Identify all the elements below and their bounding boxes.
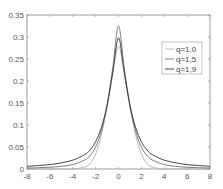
line-chart: -8-6-4-20246800.050.10.150.20.250.30.35q… [0, 0, 223, 189]
x-tick-label: -4 [69, 172, 77, 181]
y-tick-label: 0.3 [13, 33, 25, 42]
y-tick-label: 0 [20, 165, 25, 174]
y-tick-label: 0.35 [8, 11, 24, 20]
x-tick-label: -8 [23, 172, 31, 181]
x-tick-label: 4 [162, 172, 167, 181]
y-tick-label: 0.25 [8, 55, 24, 64]
x-tick-label: 2 [139, 172, 144, 181]
x-tick-label: 0 [116, 172, 121, 181]
x-tick-label: -2 [92, 172, 100, 181]
y-tick-label: 0.2 [13, 77, 25, 86]
x-tick-label: 6 [185, 172, 190, 181]
y-tick-label: 0.1 [13, 121, 25, 130]
y-tick-label: 0.05 [8, 143, 24, 152]
legend-label: q=1,9 [176, 65, 197, 74]
legend-label: q=1,0 [176, 45, 197, 54]
y-tick-label: 0.15 [8, 99, 24, 108]
x-tick-label: -6 [46, 172, 54, 181]
legend-label: q=1,5 [176, 55, 197, 64]
x-tick-label: 8 [208, 172, 213, 181]
